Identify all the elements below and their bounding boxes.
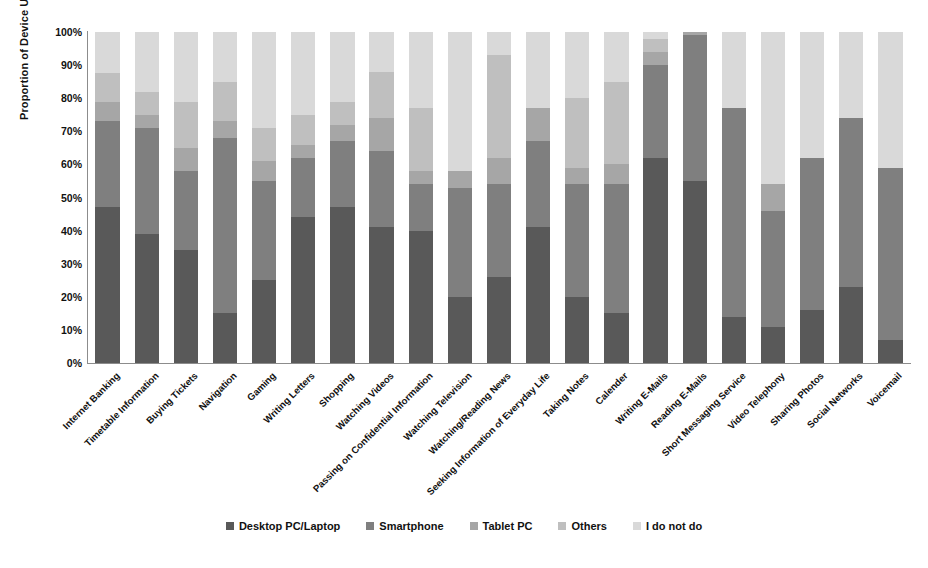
bar-segment[interactable] <box>448 32 472 171</box>
bar-segment[interactable] <box>369 118 393 151</box>
bar-segment[interactable] <box>252 32 276 128</box>
y-axis-tick: 0% <box>28 357 82 369</box>
bar-segment[interactable] <box>761 32 785 184</box>
bar-segment[interactable] <box>643 52 667 65</box>
legend-item[interactable]: Desktop PC/Laptop <box>226 520 340 532</box>
bar-segment[interactable] <box>174 32 198 102</box>
bar-segment[interactable] <box>643 39 667 52</box>
bar-column[interactable] <box>252 32 276 363</box>
bar-column[interactable] <box>683 32 707 363</box>
bar-segment[interactable] <box>291 115 315 145</box>
bar-segment[interactable] <box>565 32 589 98</box>
bar-segment[interactable] <box>409 184 433 230</box>
legend-item[interactable]: Others <box>558 520 606 532</box>
bar-segment[interactable] <box>95 121 119 207</box>
bar-segment[interactable] <box>565 98 589 168</box>
bar-segment[interactable] <box>330 125 354 142</box>
legend-label: Smartphone <box>379 520 443 532</box>
bar-segment[interactable] <box>565 168 589 185</box>
bar-segment[interactable] <box>487 32 511 55</box>
bar-column[interactable] <box>643 32 667 363</box>
bar-segment[interactable] <box>839 32 863 118</box>
bar-segment[interactable] <box>526 108 550 141</box>
legend-label: Tablet PC <box>483 520 533 532</box>
bar-column[interactable] <box>878 32 902 363</box>
bar-segment[interactable] <box>291 217 315 363</box>
bar-segment[interactable] <box>643 65 667 158</box>
bar-segment[interactable] <box>878 168 902 340</box>
bar-segment[interactable] <box>839 118 863 287</box>
bar-column[interactable] <box>839 32 863 363</box>
bar-column[interactable] <box>135 32 159 363</box>
bar-segment[interactable] <box>878 32 902 168</box>
bar-segment[interactable] <box>800 158 824 310</box>
bar-segment[interactable] <box>174 171 198 250</box>
bar-segment[interactable] <box>604 82 628 165</box>
bar-column[interactable] <box>722 32 746 363</box>
stacked-bar-chart: Proportion of Device Used 100%90%80%70%6… <box>0 0 928 568</box>
bar-segment[interactable] <box>565 184 589 297</box>
bar-segment[interactable] <box>369 32 393 72</box>
bar-segment[interactable] <box>722 108 746 317</box>
bar-column[interactable] <box>761 32 785 363</box>
bar-column[interactable] <box>330 32 354 363</box>
bar-column[interactable] <box>174 32 198 363</box>
bar-segment[interactable] <box>135 128 159 234</box>
bar-segment[interactable] <box>722 32 746 108</box>
bar-segment[interactable] <box>526 141 550 227</box>
bar-segment[interactable] <box>213 138 237 313</box>
bar-segment[interactable] <box>213 121 237 138</box>
y-axis-tick: 70% <box>28 125 82 137</box>
legend-swatch-icon <box>366 522 374 530</box>
bar-segment[interactable] <box>448 171 472 188</box>
bar-segment[interactable] <box>409 32 433 108</box>
bar-segment[interactable] <box>761 184 785 210</box>
bar-segment[interactable] <box>409 108 433 171</box>
legend-item[interactable]: I do not do <box>633 520 702 532</box>
bar-segment[interactable] <box>330 32 354 102</box>
bar-segment[interactable] <box>174 148 198 171</box>
bar-segment[interactable] <box>761 211 785 327</box>
bar-segment[interactable] <box>409 171 433 184</box>
bar-segment[interactable] <box>800 32 824 158</box>
bar-segment[interactable] <box>213 82 237 122</box>
bar-column[interactable] <box>369 32 393 363</box>
legend-swatch-icon <box>558 522 566 530</box>
bar-segment[interactable] <box>213 32 237 82</box>
bar-segment[interactable] <box>448 188 472 297</box>
bar-segment[interactable] <box>291 32 315 115</box>
bar-segment[interactable] <box>95 207 119 363</box>
bar-segment[interactable] <box>487 158 511 184</box>
bar-segment[interactable] <box>369 72 393 118</box>
legend-item[interactable]: Tablet PC <box>470 520 533 532</box>
bar-segment[interactable] <box>252 181 276 280</box>
bar-segment[interactable] <box>252 128 276 161</box>
bar-segment[interactable] <box>95 73 119 101</box>
legend-item[interactable]: Smartphone <box>366 520 443 532</box>
bar-segment[interactable] <box>604 164 628 184</box>
bar-segment[interactable] <box>95 102 119 122</box>
bar-column[interactable] <box>448 32 472 363</box>
bar-segment[interactable] <box>135 92 159 115</box>
bar-segment[interactable] <box>174 102 198 148</box>
bar-segment[interactable] <box>95 32 119 73</box>
bar-segment[interactable] <box>643 32 667 39</box>
bar-segment[interactable] <box>604 32 628 82</box>
bar-column[interactable] <box>291 32 315 363</box>
bar-segment[interactable] <box>330 141 354 207</box>
bar-segment[interactable] <box>330 102 354 125</box>
bar-segment[interactable] <box>369 151 393 227</box>
x-axis-category-label-text: Watching Television <box>401 370 474 443</box>
bar-segment[interactable] <box>291 145 315 158</box>
bar-segment[interactable] <box>252 161 276 181</box>
bar-segment[interactable] <box>135 115 159 128</box>
bar-column[interactable] <box>95 32 119 363</box>
bar-segment[interactable] <box>291 158 315 218</box>
bar-column[interactable] <box>409 32 433 363</box>
bar-segment[interactable] <box>135 32 159 92</box>
bar-segment[interactable] <box>683 35 707 181</box>
bar-segment[interactable] <box>526 32 550 108</box>
bar-segment[interactable] <box>487 55 511 158</box>
legend-swatch-icon <box>633 522 641 530</box>
bar-segment[interactable] <box>487 184 511 277</box>
